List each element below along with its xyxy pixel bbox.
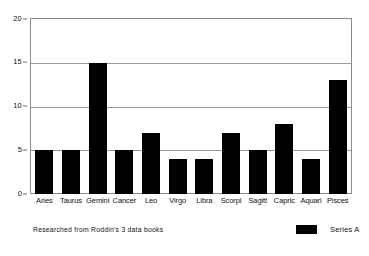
y-tick-mark-20 bbox=[23, 18, 27, 19]
y-tick-label-0: 0 bbox=[18, 190, 22, 198]
bar-slot-aquari bbox=[298, 19, 325, 194]
bar-slot-sagitt bbox=[244, 19, 271, 194]
bar-aquari[interactable] bbox=[302, 159, 320, 194]
bar-libra[interactable] bbox=[195, 159, 213, 194]
bar-slot-leo bbox=[138, 19, 165, 194]
bar-gemini[interactable] bbox=[89, 63, 107, 194]
x-tick-label-taurus: Taurus bbox=[58, 197, 85, 211]
y-tick-mark-15 bbox=[23, 62, 27, 63]
y-tick-mark-5 bbox=[23, 149, 27, 150]
y-tick-label-10: 10 bbox=[13, 102, 22, 110]
bar-slot-capric bbox=[271, 19, 298, 194]
y-tick-label-15: 15 bbox=[13, 59, 22, 67]
x-tick-label-sagitt: Sagitt bbox=[244, 197, 271, 211]
bar-slot-scorpi bbox=[218, 19, 245, 194]
bar-slot-libra bbox=[191, 19, 218, 194]
bar-slot-cancer bbox=[111, 19, 138, 194]
legend-swatch-series-a bbox=[296, 225, 317, 234]
bar-slot-pisces bbox=[324, 19, 351, 194]
bar-leo[interactable] bbox=[142, 133, 160, 194]
legend-label-series-a: Series A bbox=[330, 225, 360, 234]
y-tick-label-5: 5 bbox=[18, 146, 22, 154]
y-axis: 05101520 bbox=[0, 18, 27, 194]
x-tick-label-capric: Capric bbox=[271, 197, 298, 211]
bar-slot-virgo bbox=[164, 19, 191, 194]
y-tick-mark-0 bbox=[23, 193, 27, 194]
bar-virgo[interactable] bbox=[169, 159, 187, 194]
x-tick-label-aries: Aries bbox=[31, 197, 58, 211]
x-tick-label-leo: Leo bbox=[138, 197, 165, 211]
bar-scorpi[interactable] bbox=[222, 133, 240, 194]
x-tick-label-virgo: Virgo bbox=[164, 197, 191, 211]
bar-capric[interactable] bbox=[275, 124, 293, 194]
bar-sagitt[interactable] bbox=[249, 150, 267, 194]
bar-cancer[interactable] bbox=[115, 150, 133, 194]
bar-slot-gemini bbox=[84, 19, 111, 194]
y-tick-mark-10 bbox=[23, 106, 27, 107]
x-tick-label-cancer: Cancer bbox=[111, 197, 138, 211]
source-note: Researched from Roddin's 3 data books bbox=[33, 226, 163, 233]
bars-container bbox=[31, 19, 351, 194]
chart-legend: Series A bbox=[296, 225, 360, 234]
bar-taurus[interactable] bbox=[62, 150, 80, 194]
x-tick-label-pisces: Pisces bbox=[324, 197, 351, 211]
bar-slot-taurus bbox=[58, 19, 85, 194]
x-tick-label-scorpi: Scorpi bbox=[218, 197, 245, 211]
bar-pisces[interactable] bbox=[329, 80, 347, 194]
x-tick-label-gemini: Gemini bbox=[84, 197, 111, 211]
bar-aries[interactable] bbox=[35, 150, 53, 194]
bar-chart: 05101520 AriesTaurusGeminiCancerLeoVirgo… bbox=[0, 0, 369, 256]
x-tick-label-aquari: Aquari bbox=[298, 197, 325, 211]
y-tick-label-20: 20 bbox=[13, 15, 22, 23]
x-axis: AriesTaurusGeminiCancerLeoVirgoLibraScor… bbox=[31, 197, 351, 211]
x-tick-label-libra: Libra bbox=[191, 197, 218, 211]
bar-slot-aries bbox=[31, 19, 58, 194]
